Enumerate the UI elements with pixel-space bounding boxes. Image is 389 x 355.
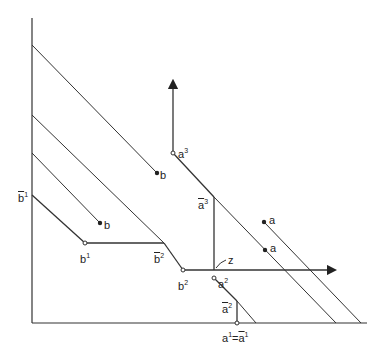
budget-line-2b <box>164 243 183 270</box>
label-z: z <box>228 255 234 266</box>
diagram-canvas <box>0 0 389 355</box>
label-a-3: a3 <box>178 147 188 160</box>
label-b-1: b1 <box>80 252 90 265</box>
label-b-bar-1: b1 <box>18 191 28 204</box>
z-pointer <box>216 260 226 268</box>
a-line <box>264 222 361 323</box>
label-a1-eq-abar1: a1=a1 <box>222 331 249 344</box>
label-b-bar-2: b2 <box>154 252 164 265</box>
label-a-bar-3: a3 <box>198 198 208 211</box>
label-a-mid: a <box>270 243 276 254</box>
label-a-2: a2 <box>218 277 228 290</box>
label-a-bar-2: a2 <box>222 302 232 315</box>
budget-line-3 <box>32 153 100 223</box>
label-b-top: b <box>160 170 166 181</box>
label-b-mid: b <box>104 220 110 231</box>
label-b-2: b2 <box>178 279 188 292</box>
kinked-line-b <box>32 195 85 243</box>
a2-line-ext <box>237 301 256 323</box>
budget-line-1 <box>32 45 157 173</box>
label-a-top: a <box>269 215 275 226</box>
